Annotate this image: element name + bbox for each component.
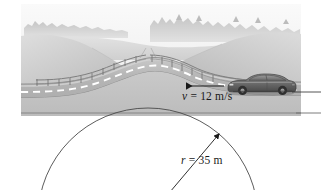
landscape-scene bbox=[21, 4, 301, 116]
velocity-value: = 12 m/s bbox=[187, 90, 232, 102]
curvature-circle bbox=[38, 108, 258, 190]
radius-label: r = 35 m bbox=[181, 154, 223, 166]
car-headlight bbox=[229, 83, 233, 85]
velocity-label: v = 12 m/s bbox=[182, 90, 232, 102]
car-taillight bbox=[292, 84, 295, 86]
radius-value: = 35 m bbox=[186, 154, 223, 166]
scene-illustration bbox=[0, 0, 322, 190]
physics-figure-car-on-hill: v = 12 m/s r = 35 m bbox=[0, 0, 322, 190]
